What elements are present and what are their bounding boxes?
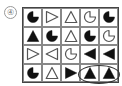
grid-cell-r4-c5	[99, 64, 118, 83]
shape-grid	[22, 7, 119, 83]
black-triangle-up-icon	[102, 66, 116, 80]
grid-cell-r4-c3	[61, 64, 80, 83]
grid-cell-r3-c2	[42, 45, 61, 64]
white-pacman-icon	[64, 47, 78, 61]
grid-cell-r4-c1	[23, 64, 42, 83]
grid-cell-r1-c4	[80, 8, 99, 27]
grid-cell-r2-c4	[80, 27, 99, 46]
black-pacman-icon	[45, 29, 59, 43]
black-triangle-right-icon	[64, 66, 78, 80]
white-triangle-right-icon	[26, 47, 40, 61]
grid-cell-r3-c1	[23, 45, 42, 64]
white-triangle-up-icon	[64, 10, 78, 24]
grid-cell-r2-c5	[99, 27, 118, 46]
grid-cell-r1-c3	[61, 8, 80, 27]
white-triangle-up-icon	[45, 66, 59, 80]
white-triangle-up-icon	[64, 29, 78, 43]
grid-cell-r1-c5	[99, 8, 118, 27]
grid-cell-r1-c1	[23, 8, 42, 27]
grid-cell-r4-c2	[42, 64, 61, 83]
white-pacman-icon	[83, 10, 97, 24]
grid-cell-r2-c3	[61, 27, 80, 46]
black-pacman-icon	[83, 29, 97, 43]
grid-cell-r2-c2	[42, 27, 61, 46]
grid-cell-r3-c4	[80, 45, 99, 64]
black-pacman-icon	[102, 10, 116, 24]
black-pacman-icon	[26, 10, 40, 24]
grid-cell-r4-c4	[80, 64, 99, 83]
grid-cell-r3-c5	[99, 45, 118, 64]
option-number-label: ④	[4, 6, 17, 19]
grid-cell-r3-c3	[61, 45, 80, 64]
grid-cell-r1-c2	[42, 8, 61, 27]
white-triangle-left-icon	[45, 47, 59, 61]
black-pacman-icon	[26, 66, 40, 80]
black-triangle-up-icon	[26, 29, 40, 43]
black-triangle-left-icon	[83, 47, 97, 61]
white-pacman-icon	[102, 29, 116, 43]
grid-cell-r2-c1	[23, 27, 42, 46]
black-triangle-up-icon	[83, 66, 97, 80]
white-triangle-right-icon	[45, 10, 59, 24]
black-triangle-left-icon	[102, 47, 116, 61]
